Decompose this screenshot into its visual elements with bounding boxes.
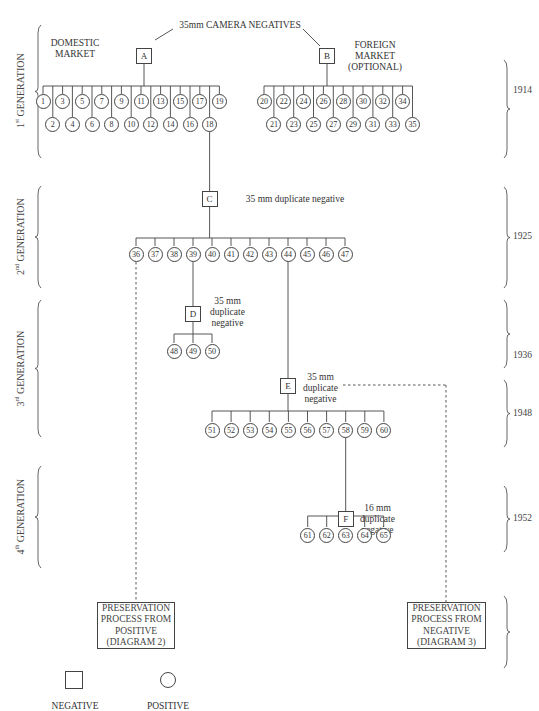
- generation-label-3: 3rd GENERATION: [14, 319, 25, 419]
- positive-node: 51: [205, 423, 220, 438]
- year-label: 1948: [513, 408, 532, 418]
- negative-c-label: 35 mm duplicate negative: [240, 194, 350, 206]
- positive-node: 10: [124, 117, 139, 132]
- positive-node: 59: [357, 423, 372, 438]
- positive-node: 25: [306, 117, 321, 132]
- negative-e-label: 35 mmduplicatenegative: [298, 372, 343, 406]
- positive-node: 13: [153, 94, 168, 109]
- negative-node-C: C: [202, 191, 218, 207]
- preservation-negative-box: PRESERVATIONPROCESS FROMNEGATIVE(DIAGRAM…: [407, 602, 486, 649]
- generation-label-4: 4th GENERATION: [14, 467, 25, 567]
- positive-node: 7: [94, 94, 109, 109]
- positive-node: 32: [375, 94, 390, 109]
- foreign-market-label: FOREIGNMARKET(OPTIONAL): [335, 40, 415, 76]
- positive-node: 22: [276, 94, 291, 109]
- positive-node: 58: [338, 423, 353, 438]
- year-label: 1936: [513, 350, 532, 360]
- positive-node: 47: [338, 247, 353, 262]
- positive-node: 31: [365, 117, 380, 132]
- positive-node: 33: [385, 117, 400, 132]
- positive-node: 64: [357, 528, 372, 543]
- positive-node: 24: [296, 94, 311, 109]
- positive-node: 57: [319, 423, 334, 438]
- positive-node: 37: [148, 247, 163, 262]
- year-label: 1952: [513, 513, 532, 523]
- positive-node: 3: [55, 94, 70, 109]
- positive-node: 1: [36, 94, 51, 109]
- positive-node: 42: [243, 247, 258, 262]
- positive-node: 2: [45, 117, 60, 132]
- positive-node: 27: [326, 117, 341, 132]
- positive-node: 26: [316, 94, 331, 109]
- positive-node: 44: [281, 247, 296, 262]
- positive-node: 17: [192, 94, 207, 109]
- positive-node: 21: [266, 117, 281, 132]
- positive-node: 9: [114, 94, 129, 109]
- positive-node: 5: [75, 94, 90, 109]
- positive-node: 4: [65, 117, 80, 132]
- positive-node: 11: [134, 94, 149, 109]
- positive-node: 52: [224, 423, 239, 438]
- positive-node: 28: [336, 94, 351, 109]
- positive-node: 20: [257, 94, 272, 109]
- legend-negative-square: [65, 671, 83, 689]
- positive-node: 40: [205, 247, 220, 262]
- positive-node: 45: [300, 247, 315, 262]
- positive-node: 48: [167, 344, 182, 359]
- positive-node: 62: [319, 528, 334, 543]
- positive-node: 61: [300, 528, 315, 543]
- generation-label-1: 1st GENERATION: [14, 41, 25, 141]
- positive-node: 56: [300, 423, 315, 438]
- legend-positive-label: POSITIVE: [145, 701, 191, 711]
- negative-node-E: E: [280, 378, 296, 394]
- positive-node: 35: [405, 117, 420, 132]
- year-label: 1925: [513, 231, 532, 241]
- positive-node: 19: [212, 94, 227, 109]
- positive-node: 54: [262, 423, 277, 438]
- negative-node-D: D: [185, 306, 201, 322]
- positive-node: 60: [376, 423, 391, 438]
- generation-label-2: 2nd GENERATION: [14, 187, 25, 287]
- negative-node-F: F: [338, 511, 354, 527]
- positive-node: 12: [143, 117, 158, 132]
- year-label: 1914: [513, 85, 532, 95]
- preservation-positive-box: PRESERVATIONPROCESS FROMPOSITIVE(DIAGRAM…: [97, 602, 175, 649]
- positive-node: 38: [167, 247, 182, 262]
- diagram-title: 35mm CAMERA NEGATIVES: [175, 20, 305, 32]
- domestic-market-label: DOMESTICMARKET: [40, 38, 110, 62]
- positive-node: 18: [202, 117, 217, 132]
- positive-node: 43: [262, 247, 277, 262]
- negative-node-B: B: [319, 48, 335, 64]
- positive-node: 55: [281, 423, 296, 438]
- positive-node: 16: [183, 117, 198, 132]
- positive-node: 8: [104, 117, 119, 132]
- positive-node: 36: [129, 247, 144, 262]
- positive-node: 30: [356, 94, 371, 109]
- positive-node: 49: [186, 344, 201, 359]
- positive-node: 41: [224, 247, 239, 262]
- positive-node: 34: [395, 94, 410, 109]
- legend-negative-label: NEGATIVE: [50, 701, 100, 711]
- positive-node: 23: [286, 117, 301, 132]
- positive-node: 29: [346, 117, 361, 132]
- negative-d-label: 35 mmduplicatenegative: [205, 296, 250, 330]
- positive-node: 65: [376, 528, 391, 543]
- positive-node: 50: [205, 344, 220, 359]
- negative-node-A: A: [136, 48, 152, 64]
- legend-positive-circle: [160, 672, 176, 688]
- positive-node: 39: [186, 247, 201, 262]
- positive-node: 15: [173, 94, 188, 109]
- positive-node: 53: [243, 423, 258, 438]
- positive-node: 6: [85, 117, 100, 132]
- positive-node: 63: [338, 528, 353, 543]
- positive-node: 46: [319, 247, 334, 262]
- positive-node: 14: [163, 117, 178, 132]
